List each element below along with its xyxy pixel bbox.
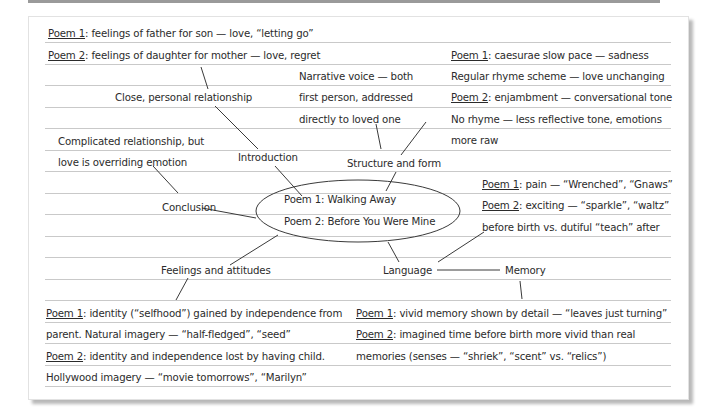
poem-label: Poem 2 bbox=[482, 200, 519, 211]
note-text: : imagined time before birth more vivid … bbox=[393, 329, 635, 340]
ruled-line bbox=[45, 365, 671, 366]
poem-label: Poem 2 bbox=[451, 92, 488, 103]
note-text: : identity and independence lost by havi… bbox=[83, 351, 325, 362]
center-poem1-title: Poem 1: Walking Away bbox=[284, 193, 396, 206]
language-note-poem1: Poem 1: pain — “Wrenched”, “Gnaws” bbox=[482, 178, 673, 191]
language-note-poem2: Poem 2: exciting — “sparkle”, “waltz” bbox=[482, 199, 669, 212]
note-text: : vivid memory shown by detail — “leaves… bbox=[393, 308, 667, 319]
structure-note-poem2: Poem 2: enjambment — conversational tone bbox=[451, 91, 672, 104]
note-text: : identity (“selfhood”) gained by indepe… bbox=[83, 308, 342, 319]
ruled-line bbox=[45, 42, 671, 43]
narrative-note-line1: Narrative voice — both bbox=[299, 70, 413, 83]
language-note-line3: before birth vs. dutiful “teach” after bbox=[482, 221, 660, 234]
ruled-line bbox=[45, 300, 671, 301]
conclusion-note-line2: love is overriding emotion bbox=[58, 156, 187, 169]
structure-note-line5: more raw bbox=[451, 134, 498, 147]
note-text: : feelings of daughter for mother — love… bbox=[85, 50, 320, 61]
narrative-note-line3: directly to loved one bbox=[299, 113, 401, 126]
intro-note-poem1: Poem 1: feelings of father for son — lov… bbox=[48, 27, 313, 40]
ruled-line bbox=[45, 64, 671, 65]
ruled-line bbox=[45, 128, 671, 129]
branch-memory: Memory bbox=[505, 264, 546, 277]
note-text: : caesurae slow pace — sadness bbox=[488, 50, 649, 61]
relationship-note: Close, personal relationship bbox=[115, 91, 252, 104]
poem-label: Poem 1 bbox=[356, 308, 393, 319]
poem-label: Poem 1 bbox=[482, 179, 519, 190]
ruled-line bbox=[45, 107, 671, 108]
feelings-note-line4: Hollywood imagery — “movie tomorrows”, “… bbox=[46, 371, 307, 384]
ruled-line bbox=[45, 386, 671, 387]
feelings-note-poem1: Poem 1: identity (“selfhood”) gained by … bbox=[46, 307, 342, 320]
branch-conclusion: Conclusion bbox=[162, 201, 216, 214]
ruled-line bbox=[45, 279, 671, 280]
structure-note-line2: Regular rhyme scheme — love unchanging bbox=[451, 70, 665, 83]
ruled-line bbox=[45, 85, 671, 86]
structure-note-line4: No rhyme — less reflective tone, emotion… bbox=[451, 113, 662, 126]
center-poem2-title: Poem 2: Before You Were Mine bbox=[284, 215, 435, 228]
poem-label: Poem 1 bbox=[451, 50, 488, 61]
ruled-line bbox=[45, 171, 671, 172]
note-text: : feelings of father for son — love, “le… bbox=[85, 28, 313, 39]
note-text: : exciting — “sparkle”, “waltz” bbox=[519, 200, 669, 211]
memory-note-poem2: Poem 2: imagined time before birth more … bbox=[356, 328, 635, 341]
poem-label: Poem 2 bbox=[46, 351, 83, 362]
conclusion-note-line1: Complicated relationship, but bbox=[58, 135, 204, 148]
memory-note-poem1: Poem 1: vivid memory shown by detail — “… bbox=[356, 307, 667, 320]
poem-label: Poem 1 bbox=[48, 28, 85, 39]
branch-structure-and-form: Structure and form bbox=[347, 157, 441, 170]
intro-note-poem2: Poem 2: feelings of daughter for mother … bbox=[48, 49, 320, 62]
feelings-note-poem2: Poem 2: identity and independence lost b… bbox=[46, 350, 325, 363]
poem-label: Poem 1 bbox=[46, 308, 83, 319]
branch-feelings-and-attitudes: Feelings and attitudes bbox=[161, 264, 271, 277]
note-text: : pain — “Wrenched”, “Gnaws” bbox=[519, 179, 673, 190]
ruled-line bbox=[45, 150, 671, 151]
feelings-note-line2: parent. Natural imagery — “half-fledged”… bbox=[46, 328, 291, 341]
branch-introduction: Introduction bbox=[238, 151, 298, 164]
note-text: : enjambment — conversational tone bbox=[488, 92, 672, 103]
structure-note-poem1: Poem 1: caesurae slow pace — sadness bbox=[451, 49, 649, 62]
top-edge-bar bbox=[28, 0, 660, 3]
memory-note-line3: memories (senses — “shriek”, “scent” vs.… bbox=[356, 350, 606, 363]
branch-language: Language bbox=[383, 264, 432, 277]
ruled-line bbox=[45, 236, 671, 237]
ruled-line bbox=[45, 343, 671, 344]
poem-label: Poem 2 bbox=[356, 329, 393, 340]
narrative-note-line2: first person, addressed bbox=[299, 91, 413, 104]
ruled-line bbox=[45, 322, 671, 323]
poem-label: Poem 2 bbox=[48, 50, 85, 61]
ruled-line bbox=[45, 257, 671, 258]
